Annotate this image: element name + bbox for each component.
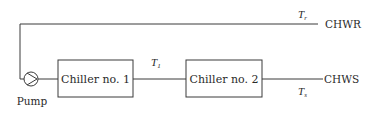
chiller-loop-diagram: Chiller no. 1 Chiller no. 2 CHWR CHWS Pu… xyxy=(0,0,375,114)
chws-label: CHWS xyxy=(324,73,359,85)
intermediate-temp-label: T1 xyxy=(151,56,161,70)
chwr-label: CHWR xyxy=(325,18,362,30)
supply-temp-label: Ts xyxy=(298,85,307,99)
return-temp-label: Tr xyxy=(298,8,307,22)
chiller-1-label: Chiller no. 1 xyxy=(61,73,130,86)
pump-label: Pump xyxy=(17,95,48,107)
pump-icon xyxy=(24,72,38,86)
chiller-2-label: Chiller no. 2 xyxy=(190,73,259,86)
